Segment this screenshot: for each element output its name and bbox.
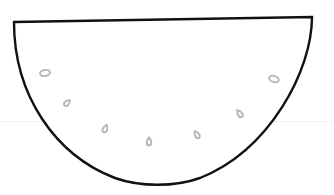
watermelon-slice-drawing (0, 0, 334, 195)
watermelon-outline (14, 17, 312, 185)
